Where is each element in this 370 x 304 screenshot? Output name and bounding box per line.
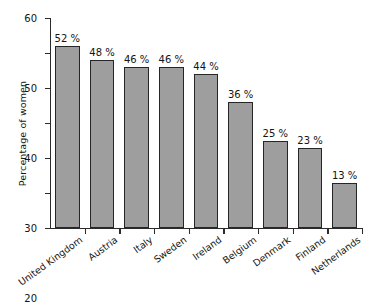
y-tick-label: 40	[24, 153, 37, 164]
x-tick-mark	[258, 228, 259, 234]
x-tick-mark	[189, 228, 190, 234]
x-tick-mark	[119, 228, 120, 234]
bar: 25 %	[263, 141, 288, 229]
y-tick-mark: 30	[45, 123, 50, 124]
bar: 13 %	[332, 183, 357, 229]
y-tick-mark: 40	[45, 88, 50, 89]
y-tick-label: 60	[24, 13, 37, 24]
x-tick-mark	[293, 228, 294, 234]
x-tick-mark	[154, 228, 155, 234]
x-tick-mark	[327, 228, 328, 234]
y-tick-mark: 20	[45, 158, 50, 159]
y-tick-label: 30	[24, 223, 37, 234]
bar-value-label: 23 %	[297, 135, 322, 146]
x-tick-label: Denmark	[251, 234, 293, 269]
x-tick-mark	[223, 228, 224, 234]
x-tick-mark	[85, 228, 86, 234]
bar-value-label: 44 %	[193, 61, 218, 72]
x-tick-label: Italy	[131, 234, 154, 255]
bar-value-label: 36 %	[228, 89, 253, 100]
plot-area: 0102030405060 52 %48 %46 %46 %44 %36 %25…	[50, 18, 362, 228]
y-tick-label: 50	[24, 83, 37, 94]
bar: 52 %	[55, 46, 80, 228]
bar-value-label: 46 %	[124, 54, 149, 65]
bar-value-label: 52 %	[55, 33, 80, 44]
bar: 46 %	[124, 67, 149, 228]
x-tick-label: Ireland	[190, 234, 223, 262]
x-tick-label: Sweden	[152, 234, 189, 265]
x-tick-label: Austria	[86, 234, 120, 263]
bar-chart: Percentage of women 0102030405060 52 %48…	[0, 0, 370, 304]
y-tick-mark: 10	[45, 193, 50, 194]
bar: 46 %	[159, 67, 184, 228]
x-tick-mark	[362, 228, 363, 234]
bar-value-label: 48 %	[89, 47, 114, 58]
y-tick-label: 20	[24, 293, 37, 304]
y-axis-line	[50, 18, 51, 228]
x-axis-line	[50, 228, 362, 229]
y-tick-mark: 50	[45, 53, 50, 54]
bar-value-label: 25 %	[263, 128, 288, 139]
bar-value-label: 13 %	[332, 170, 357, 181]
y-tick-mark: 0	[45, 228, 50, 229]
y-axis-label: Percentage of women	[17, 54, 28, 214]
x-tick-label: United Kingdom	[17, 234, 85, 288]
bar: 44 %	[194, 74, 219, 228]
y-tick-mark: 60	[45, 18, 50, 19]
bar: 36 %	[228, 102, 253, 228]
bar-value-label: 46 %	[159, 54, 184, 65]
bar: 48 %	[90, 60, 115, 228]
bar: 23 %	[298, 148, 323, 229]
